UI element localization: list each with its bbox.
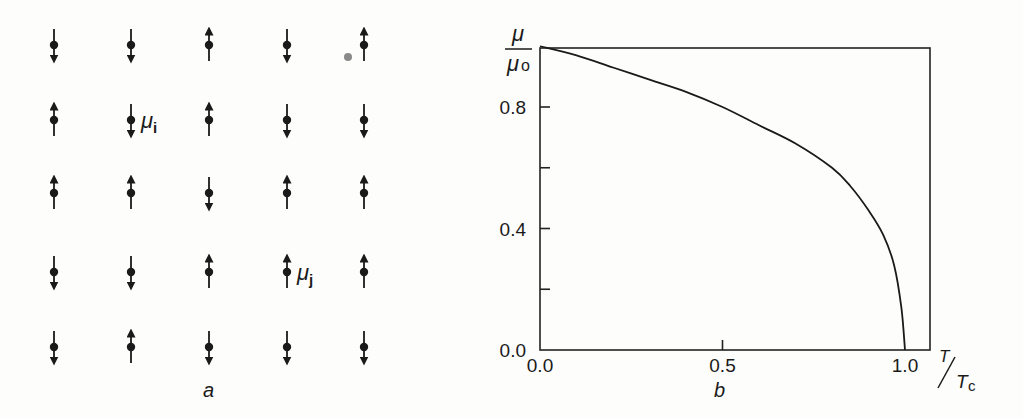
spin-up-icon (283, 258, 291, 288)
x-axis-ticks: 0.00.51.0 (527, 340, 918, 376)
mu-i-label: μi (140, 108, 157, 136)
spin-up-icon (360, 179, 368, 209)
y-tick-label: 0.0 (500, 340, 526, 361)
panel-b-caption: b (714, 379, 725, 401)
spin-down-icon (283, 104, 291, 134)
x-tick-label: 0.0 (527, 355, 553, 376)
spin-up-icon (50, 106, 58, 136)
x-tick-label: 0.5 (709, 355, 735, 376)
spin-up-icon (283, 179, 291, 209)
spin-down-icon (127, 256, 135, 286)
spin-up-icon (127, 179, 135, 209)
spin-down-icon (205, 331, 213, 361)
y-tick-label: 0.4 (500, 219, 527, 240)
mu-j-label: μj (296, 260, 313, 288)
spin-up-icon (127, 333, 135, 363)
spin-down-icon (283, 29, 291, 59)
svg-text:c: c (968, 377, 976, 394)
spin-up-icon (50, 179, 58, 209)
spin-down-icon (50, 331, 58, 361)
panel-a-caption: a (203, 379, 214, 401)
spin-down-icon (50, 256, 58, 286)
spin-up-icon (205, 258, 213, 288)
spin-down-icon (205, 177, 213, 207)
spin-down-icon (50, 29, 58, 59)
spin-up-icon (360, 31, 368, 61)
svg-text:o: o (521, 57, 530, 74)
x-axis-label: T T c (938, 347, 976, 394)
magnetization-curve (540, 46, 905, 350)
spin-down-icon (283, 331, 291, 361)
spin-up-icon (205, 106, 213, 136)
plot-frame (540, 48, 930, 350)
spin-down-icon (127, 104, 135, 134)
svg-text:T: T (939, 347, 951, 366)
spin-down-icon (127, 29, 135, 59)
svg-text:μ: μ (511, 21, 524, 46)
stray-dot (344, 53, 352, 61)
spin-lattice (50, 29, 368, 363)
spin-down-icon (360, 104, 368, 134)
y-axis-ticks: 0.00.40.8 (500, 97, 550, 361)
figure: μi μj a 0.00.40.8 0.00.51.0 μ μ o T T c … (0, 0, 1023, 418)
svg-text:μ: μ (506, 51, 519, 76)
y-axis-label: μ μ o (505, 21, 532, 76)
spin-up-icon (205, 31, 213, 61)
spin-up-icon (360, 258, 368, 288)
spin-down-icon (360, 331, 368, 361)
x-tick-label: 1.0 (892, 355, 918, 376)
y-tick-label: 0.8 (500, 97, 526, 118)
